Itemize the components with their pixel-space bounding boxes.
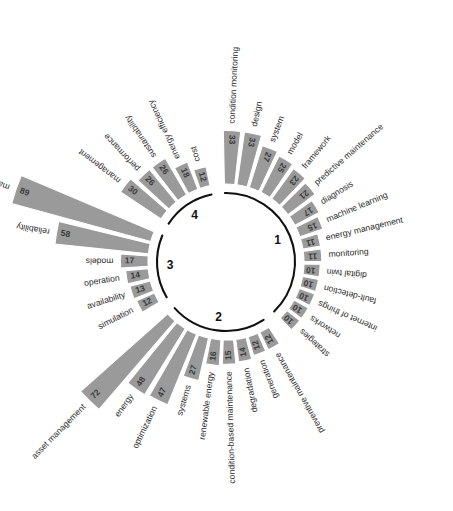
category-label: energy	[112, 391, 136, 419]
category-label: diagnosis	[319, 179, 355, 207]
bar-value-label: 33	[227, 135, 237, 145]
category-label: models	[86, 256, 114, 266]
category-label: simulation	[96, 305, 135, 332]
group-arc	[157, 235, 167, 297]
group-number-label: 1	[274, 233, 281, 247]
category-label: fault-detection	[322, 283, 377, 306]
category-label: predictive maintenance	[312, 121, 385, 187]
category-label: asset management	[29, 401, 88, 461]
category-label: model	[285, 131, 306, 156]
group-number-label: 2	[215, 310, 222, 324]
bar-value-label: 14	[130, 269, 141, 280]
category-label: availability	[86, 289, 127, 311]
category-label: digital twin	[326, 267, 367, 281]
bar-value-label: 16	[207, 350, 218, 361]
category-label: optimization	[130, 404, 159, 450]
category-label: condition-based maintenance	[224, 371, 237, 484]
circular-bar-chart-figure: 33condition monitoring33design27system25…	[0, 0, 453, 511]
group-number-label: 4	[191, 208, 198, 222]
category-label: monitoring	[328, 246, 369, 259]
group-arc	[169, 195, 212, 224]
category-label: degradation	[241, 367, 260, 414]
bar-value-label: 58	[60, 228, 71, 240]
category-label: operation	[83, 273, 120, 288]
bar-value-label: 10	[305, 265, 316, 276]
category-label: preventive maintenance	[272, 351, 326, 436]
category-label: cost	[188, 145, 202, 163]
category-label: maintenance	[0, 167, 11, 193]
category-label: reliability	[15, 221, 50, 237]
bar-value-label: 15	[223, 350, 233, 360]
group-number-label: 3	[167, 258, 174, 272]
category-label: systems	[174, 384, 193, 417]
category-label: condition monitoring	[227, 46, 241, 124]
chart-canvas: 33condition monitoring33design27system25…	[0, 0, 453, 511]
bar-value-label: 17	[125, 255, 135, 265]
category-label: system	[267, 114, 286, 143]
bar-value-label: 11	[308, 251, 318, 262]
category-label: design	[249, 100, 264, 127]
category-label: renewable energy	[197, 371, 216, 441]
